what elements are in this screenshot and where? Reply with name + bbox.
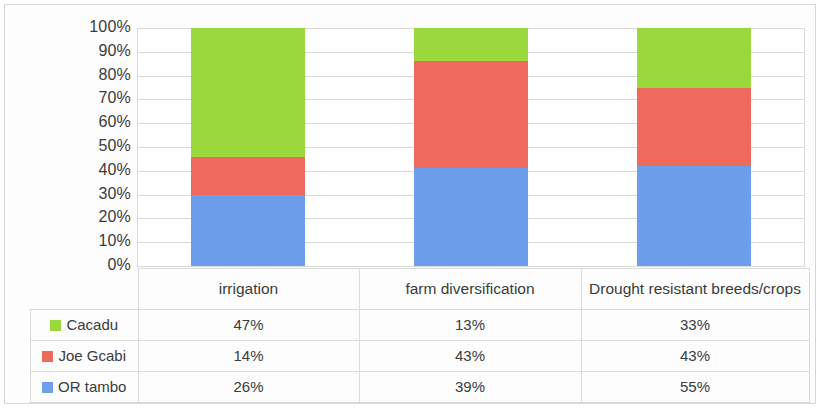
bar-group	[637, 28, 751, 266]
table-cell-value: 13%	[359, 310, 581, 341]
plot-area	[137, 28, 805, 266]
stacked-bar	[637, 28, 751, 266]
table-column-header: irrigation	[138, 269, 359, 310]
table-row: Joe Gcabi14%43%43%	[31, 341, 810, 372]
bar-segment	[414, 28, 528, 61]
table-corner-cell	[31, 269, 139, 310]
bars-layer	[137, 28, 805, 266]
y-axis-tick-label: 80%	[0, 66, 131, 84]
bar-segment	[637, 166, 751, 266]
table-cell-value: 55%	[581, 372, 809, 403]
data-table: irrigationfarm diversificationDrought re…	[30, 268, 810, 403]
table-column-header: farm diversification	[359, 269, 581, 310]
y-axis-tick-label: 20%	[0, 208, 131, 226]
y-axis-tick-label: 40%	[0, 161, 131, 179]
y-axis-tick-label: 50%	[0, 137, 131, 155]
bar-segment	[191, 195, 305, 266]
legend-label: Cacadu	[66, 316, 118, 333]
bar-segment	[191, 28, 305, 157]
legend-entry: Joe Gcabi	[31, 341, 139, 372]
legend-entry: OR tambo	[31, 372, 139, 403]
legend-label: OR tambo	[58, 378, 126, 395]
y-axis-tick-label: 10%	[0, 232, 131, 250]
bar-group	[191, 28, 305, 266]
table-row: Cacadu47%13%33%	[31, 310, 810, 341]
bar-segment	[637, 28, 751, 88]
table-column-header: Drought resistant breeds/crops	[581, 269, 809, 310]
table-cell-value: 33%	[581, 310, 809, 341]
table-row: OR tambo26%39%55%	[31, 372, 810, 403]
bar-group	[414, 28, 528, 266]
y-axis-tick-label: 70%	[0, 89, 131, 107]
table-cell-value: 43%	[359, 341, 581, 372]
bar-segment	[191, 157, 305, 195]
stacked-bar	[191, 28, 305, 266]
y-axis-tick-label: 30%	[0, 185, 131, 203]
legend-swatch-icon	[42, 382, 53, 393]
table-cell-value: 39%	[359, 372, 581, 403]
legend-label: Joe Gcabi	[58, 347, 126, 364]
bar-segment	[414, 168, 528, 266]
gridline	[137, 266, 805, 267]
bar-segment	[414, 61, 528, 169]
chart-screenshot: 100%90%80%70%60%50%40%30%20%10%0% irriga…	[0, 0, 821, 409]
table-cell-value: 43%	[581, 341, 809, 372]
table-header-row: irrigationfarm diversificationDrought re…	[31, 269, 810, 310]
y-axis-tick-label: 100%	[0, 18, 131, 36]
y-axis-tick-label: 60%	[0, 113, 131, 131]
y-axis-tick-label: 90%	[0, 42, 131, 60]
bar-segment	[637, 88, 751, 166]
stacked-bar	[414, 28, 528, 266]
legend-swatch-icon	[42, 351, 53, 362]
legend-entry: Cacadu	[31, 310, 139, 341]
table-cell-value: 47%	[138, 310, 359, 341]
table-cell-value: 14%	[138, 341, 359, 372]
data-table-wrapper: irrigationfarm diversificationDrought re…	[30, 268, 805, 398]
legend-swatch-icon	[50, 320, 61, 331]
table-cell-value: 26%	[138, 372, 359, 403]
